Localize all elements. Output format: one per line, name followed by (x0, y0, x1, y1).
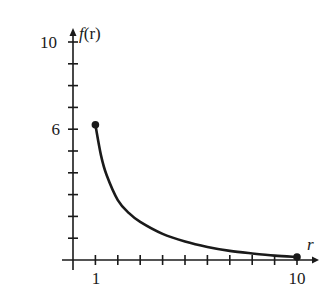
y-axis-arrow-icon (70, 28, 77, 36)
y-tick-label-6: 6 (52, 120, 61, 139)
y-axis-label-arg: (r) (84, 24, 101, 43)
x-axis-arrow-icon (312, 257, 319, 264)
chart: 10 6 1 10 r f(r) (0, 0, 333, 306)
y-tick-label-10: 10 (40, 33, 57, 52)
curve-f-of-r (95, 125, 297, 257)
x-tick-label-1: 1 (92, 269, 101, 288)
x-axis-label: r (307, 235, 314, 254)
right-endpoint-dot (293, 253, 301, 261)
y-axis-label: f(r) (79, 24, 101, 43)
left-endpoint-dot (92, 121, 100, 129)
x-tick-label-10: 10 (289, 269, 306, 288)
